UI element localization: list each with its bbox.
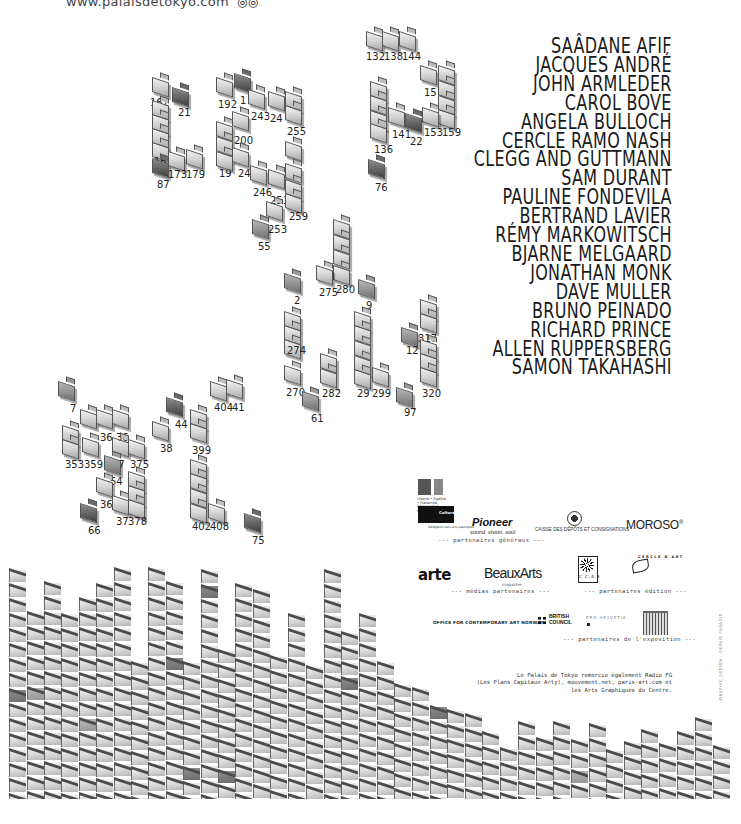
- folder-icon: [465, 715, 482, 727]
- folder-icon[interactable]: [354, 366, 371, 383]
- folder-icon[interactable]: [333, 262, 350, 279]
- folder-icon[interactable]: [190, 500, 207, 517]
- binoculars-icon: ◎◎: [237, 0, 259, 9]
- palais-building-icon: [643, 611, 668, 635]
- folder-icon: [148, 794, 165, 799]
- folder-icon[interactable]: [166, 394, 183, 411]
- folder-icon: [500, 749, 517, 761]
- folder-icon[interactable]: [388, 104, 405, 121]
- folder-icon: [341, 783, 358, 795]
- folder-icon[interactable]: [285, 102, 302, 119]
- folder-icon: [324, 616, 341, 628]
- folder-icon: [677, 763, 694, 775]
- folder-icon[interactable]: [152, 74, 169, 91]
- folder-icon[interactable]: [302, 388, 319, 405]
- folder-icon[interactable]: [372, 364, 389, 381]
- folder-icon[interactable]: [285, 190, 302, 207]
- folder-icon: [44, 628, 61, 640]
- folder-label: 24: [270, 114, 283, 124]
- folder-icon[interactable]: [112, 434, 129, 451]
- folder-icon: [359, 615, 376, 627]
- folder-icon[interactable]: [152, 418, 169, 435]
- folder-icon[interactable]: [252, 216, 269, 233]
- folder-icon[interactable]: [382, 28, 399, 45]
- folder-icon[interactable]: [80, 500, 97, 517]
- folder-icon[interactable]: [82, 434, 99, 451]
- folder-icon[interactable]: [208, 500, 225, 517]
- header-url[interactable]: www.palaisdetokyo.com◎◎: [66, 0, 259, 9]
- folder-icon: [61, 780, 78, 792]
- folder-icon: [394, 730, 411, 742]
- folder-icon[interactable]: [285, 138, 302, 155]
- folder-icon[interactable]: [358, 276, 375, 293]
- beauxarts-sub: magazine: [502, 582, 522, 587]
- folder-icon[interactable]: [112, 406, 129, 423]
- folder-icon[interactable]: [268, 88, 285, 105]
- folder-icon[interactable]: [216, 148, 233, 165]
- folder-icon[interactable]: [96, 406, 113, 423]
- folder-icon: [270, 717, 287, 729]
- folder-icon[interactable]: [266, 198, 283, 215]
- folder-icon[interactable]: [190, 420, 207, 437]
- thanks-line: Le Palais de Tokyo remercie également Ra…: [477, 672, 672, 679]
- folder-icon: [183, 738, 200, 750]
- folder-icon[interactable]: [112, 492, 129, 509]
- folder-icon: [218, 651, 235, 663]
- folder-icon[interactable]: [62, 436, 79, 453]
- folder-icon: [553, 723, 570, 735]
- folder-icon[interactable]: [366, 28, 383, 45]
- folder-icon: [44, 778, 61, 790]
- folder-icon[interactable]: [401, 324, 418, 341]
- folder-icon[interactable]: [316, 262, 333, 279]
- folder-icon[interactable]: [232, 108, 249, 125]
- folder-icon[interactable]: [58, 378, 75, 395]
- folder-stack: [26, 610, 44, 799]
- folder-icon[interactable]: [96, 474, 113, 491]
- folder-icon: [44, 763, 61, 775]
- folder-icon: [430, 722, 447, 734]
- folder-icon[interactable]: [226, 376, 243, 393]
- folder-icon: [659, 745, 676, 757]
- folder-stack: [358, 612, 376, 799]
- folder-icon: [430, 767, 447, 779]
- folder-icon[interactable]: [104, 452, 121, 469]
- folder-icon: [114, 599, 131, 611]
- folder-icon[interactable]: [320, 365, 337, 382]
- folder-icon[interactable]: [128, 436, 145, 453]
- folder-icon[interactable]: [168, 148, 185, 165]
- design-credit: GRAPHIC DESIGN : DEPUIS PARADIS: [718, 613, 723, 700]
- folder-icon: [183, 708, 200, 720]
- folder-icon[interactable]: [244, 510, 261, 527]
- folder-icon[interactable]: [284, 362, 301, 379]
- folder-icon: [253, 741, 270, 753]
- folder-icon[interactable]: [80, 406, 97, 423]
- folder-icon[interactable]: [268, 166, 285, 183]
- folder-icon: [96, 600, 113, 612]
- folder-icon: [9, 630, 26, 642]
- folder-icon[interactable]: [370, 120, 387, 137]
- folder-icon[interactable]: [284, 270, 301, 287]
- folder-label: 259: [289, 212, 308, 222]
- folder-icon[interactable]: [248, 86, 265, 103]
- folder-icon[interactable]: [172, 84, 189, 101]
- folder-icon[interactable]: [128, 496, 145, 513]
- folder-icon[interactable]: [234, 70, 251, 87]
- folder-icon[interactable]: [210, 378, 227, 395]
- folder-icon[interactable]: [396, 384, 413, 401]
- folder-icon[interactable]: [232, 144, 249, 161]
- folder-icon: [114, 704, 131, 716]
- folder-icon: [324, 796, 341, 799]
- folder-icon[interactable]: [399, 28, 416, 45]
- url-text: www.palaisdetokyo.com: [66, 0, 229, 9]
- folder-icon[interactable]: [368, 156, 385, 173]
- folder-icon[interactable]: [250, 162, 267, 179]
- folder-label: 320: [422, 389, 441, 399]
- folder-icon: [306, 742, 323, 754]
- folder-icon: [114, 794, 131, 799]
- folder-icon: [201, 721, 218, 733]
- folder-icon[interactable]: [152, 155, 169, 172]
- folder-icon: [253, 681, 270, 693]
- folder-label: 378: [128, 517, 147, 527]
- folder-icon[interactable]: [216, 74, 233, 91]
- folder-icon[interactable]: [186, 146, 203, 163]
